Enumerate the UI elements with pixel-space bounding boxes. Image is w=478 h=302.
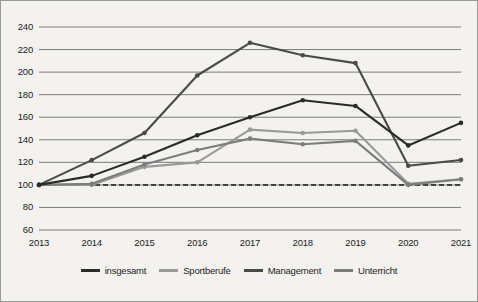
legend-swatch-icon xyxy=(334,269,353,272)
data-point xyxy=(195,148,200,153)
legend-label: Management xyxy=(268,265,321,276)
y-axis-tick-label: 100 xyxy=(5,179,33,190)
y-axis-tick-label: 160 xyxy=(5,111,33,122)
legend-label: Unterricht xyxy=(358,265,397,276)
line-chart-plot xyxy=(1,1,478,302)
data-point xyxy=(195,73,200,78)
chart-container: 6080100120140160180200220240 20132014201… xyxy=(0,0,478,302)
data-point xyxy=(353,61,358,66)
data-point xyxy=(300,131,305,136)
chart-legend: insgesamtSportberufeManagementUnterricht xyxy=(1,265,477,276)
data-point xyxy=(353,128,358,133)
data-point xyxy=(353,104,358,109)
y-axis-tick-label: 60 xyxy=(5,224,33,235)
data-point xyxy=(248,136,253,141)
series-line-management xyxy=(39,43,461,185)
data-point xyxy=(89,181,94,186)
data-point xyxy=(248,115,253,120)
y-axis-tick-label: 220 xyxy=(5,44,33,55)
x-axis-tick-label: 2014 xyxy=(70,237,114,248)
data-point xyxy=(142,154,147,159)
legend-label: insgesamt xyxy=(105,265,147,276)
legend-swatch-icon xyxy=(159,269,178,272)
data-point xyxy=(248,127,253,132)
y-axis-tick-label: 200 xyxy=(5,66,33,77)
x-axis-tick-label: 2018 xyxy=(281,237,325,248)
data-point xyxy=(300,142,305,147)
data-point xyxy=(89,158,94,163)
data-point xyxy=(459,158,464,163)
data-point xyxy=(300,53,305,58)
data-point xyxy=(406,183,411,188)
x-axis-tick-label: 2020 xyxy=(386,237,430,248)
legend-item-insgesamt[interactable]: insgesamt xyxy=(81,265,147,276)
data-point xyxy=(142,131,147,136)
legend-item-sportberufe[interactable]: Sportberufe xyxy=(159,265,230,276)
y-axis-tick-label: 240 xyxy=(5,21,33,32)
x-axis-tick-label: 2021 xyxy=(439,237,478,248)
data-point xyxy=(353,139,358,144)
legend-swatch-icon xyxy=(244,269,263,272)
y-axis-tick-label: 140 xyxy=(5,134,33,145)
y-axis-tick-label: 80 xyxy=(5,201,33,212)
data-point xyxy=(459,177,464,182)
x-axis-tick-label: 2013 xyxy=(17,237,61,248)
legend-item-management[interactable]: Management xyxy=(244,265,321,276)
data-point xyxy=(37,183,42,188)
data-point xyxy=(142,162,147,167)
data-point xyxy=(195,160,200,165)
y-axis-tick-label: 120 xyxy=(5,156,33,167)
legend-item-unterricht[interactable]: Unterricht xyxy=(334,265,397,276)
y-axis-tick-label: 180 xyxy=(5,89,33,100)
data-point xyxy=(300,98,305,103)
legend-label: Sportberufe xyxy=(183,265,230,276)
data-point xyxy=(248,40,253,45)
data-point xyxy=(406,163,411,168)
data-point xyxy=(195,133,200,138)
x-axis-tick-label: 2015 xyxy=(123,237,167,248)
x-axis-tick-label: 2019 xyxy=(334,237,378,248)
data-point xyxy=(89,174,94,179)
x-axis-tick-label: 2016 xyxy=(175,237,219,248)
x-axis-tick-label: 2017 xyxy=(228,237,272,248)
data-point xyxy=(459,121,464,126)
data-point xyxy=(406,143,411,148)
legend-swatch-icon xyxy=(81,269,100,272)
